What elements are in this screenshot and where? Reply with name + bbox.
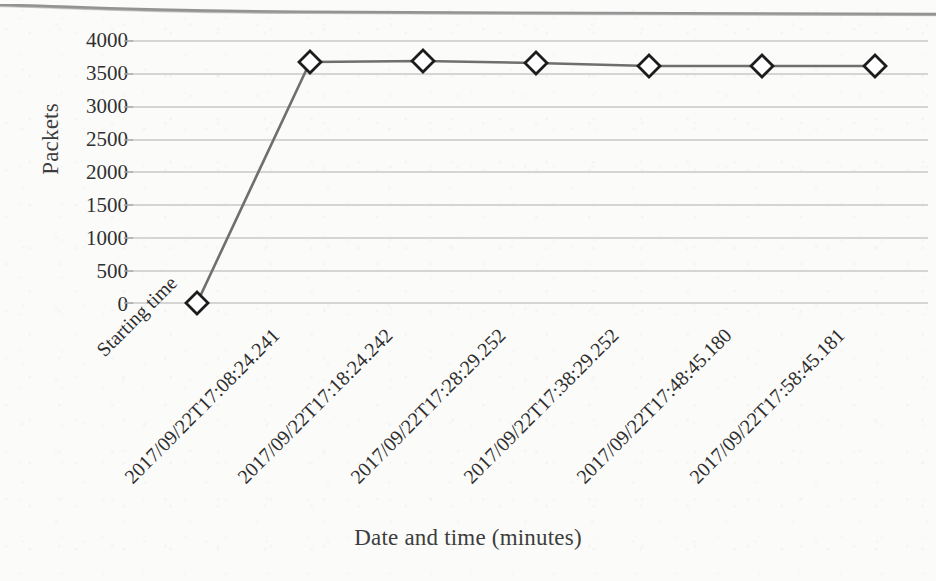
gridlines [132,41,928,303]
data-point-marker[interactable] [186,292,208,314]
series-line [197,61,875,303]
data-point-marker[interactable] [412,50,434,72]
data-point-marker[interactable] [299,51,321,73]
series-markers [186,50,886,314]
data-point-marker[interactable] [525,52,547,74]
x-axis-title: Date and time (minutes) [0,525,936,551]
chart-page: Packets 4000 3500 3000 2500 2000 1500 10… [0,0,936,581]
chart-plot-area [0,0,936,581]
y-axis-tick-marks [124,41,133,303]
